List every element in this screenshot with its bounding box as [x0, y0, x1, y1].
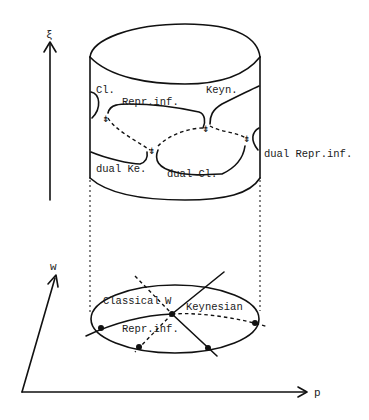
p-axis-label: p — [314, 387, 321, 399]
cusp-arrow-icon: ⇟ — [148, 146, 156, 156]
cusp-arrow-icon: ⇟ — [243, 134, 251, 144]
label-dual-repressed-inflation: dual Repr.inf. — [264, 148, 352, 160]
label-walrasian: W — [165, 295, 172, 307]
label-dual-keynesian: dual Ke. — [96, 163, 146, 175]
w-axis-label: w — [50, 261, 57, 273]
xi-axis-label: ξ — [46, 29, 53, 41]
label-base-repressed-inflation: Repr.inf. — [122, 323, 179, 335]
walrasian-point — [169, 311, 175, 317]
label-dual-classical: dual Cl. — [167, 168, 217, 180]
xi-axis — [44, 42, 56, 200]
label-classical-short: Cl. — [96, 84, 115, 96]
label-keynesian-short: Keyn. — [206, 84, 238, 96]
label-classical: Classical — [103, 295, 160, 307]
cusp-arrow-icon: ⇟ — [102, 114, 110, 124]
intersection-dot — [252, 320, 258, 326]
cusp-arrow-icon: ⇟ — [202, 124, 210, 134]
intersection-dot — [205, 345, 211, 351]
wp-axes — [22, 275, 307, 397]
disequilibrium-regimes-diagram: ξ ⇟ ⇟ ⇟ ⇟ Cl. Keyn. Repr.inf. d — [0, 0, 369, 420]
intersection-dot — [136, 344, 142, 350]
cusp-paths — [108, 118, 246, 150]
label-keynesian: Keynesian — [186, 301, 243, 313]
label-repressed-inflation: Repr.inf. — [122, 96, 179, 108]
intersection-dot — [98, 325, 104, 331]
